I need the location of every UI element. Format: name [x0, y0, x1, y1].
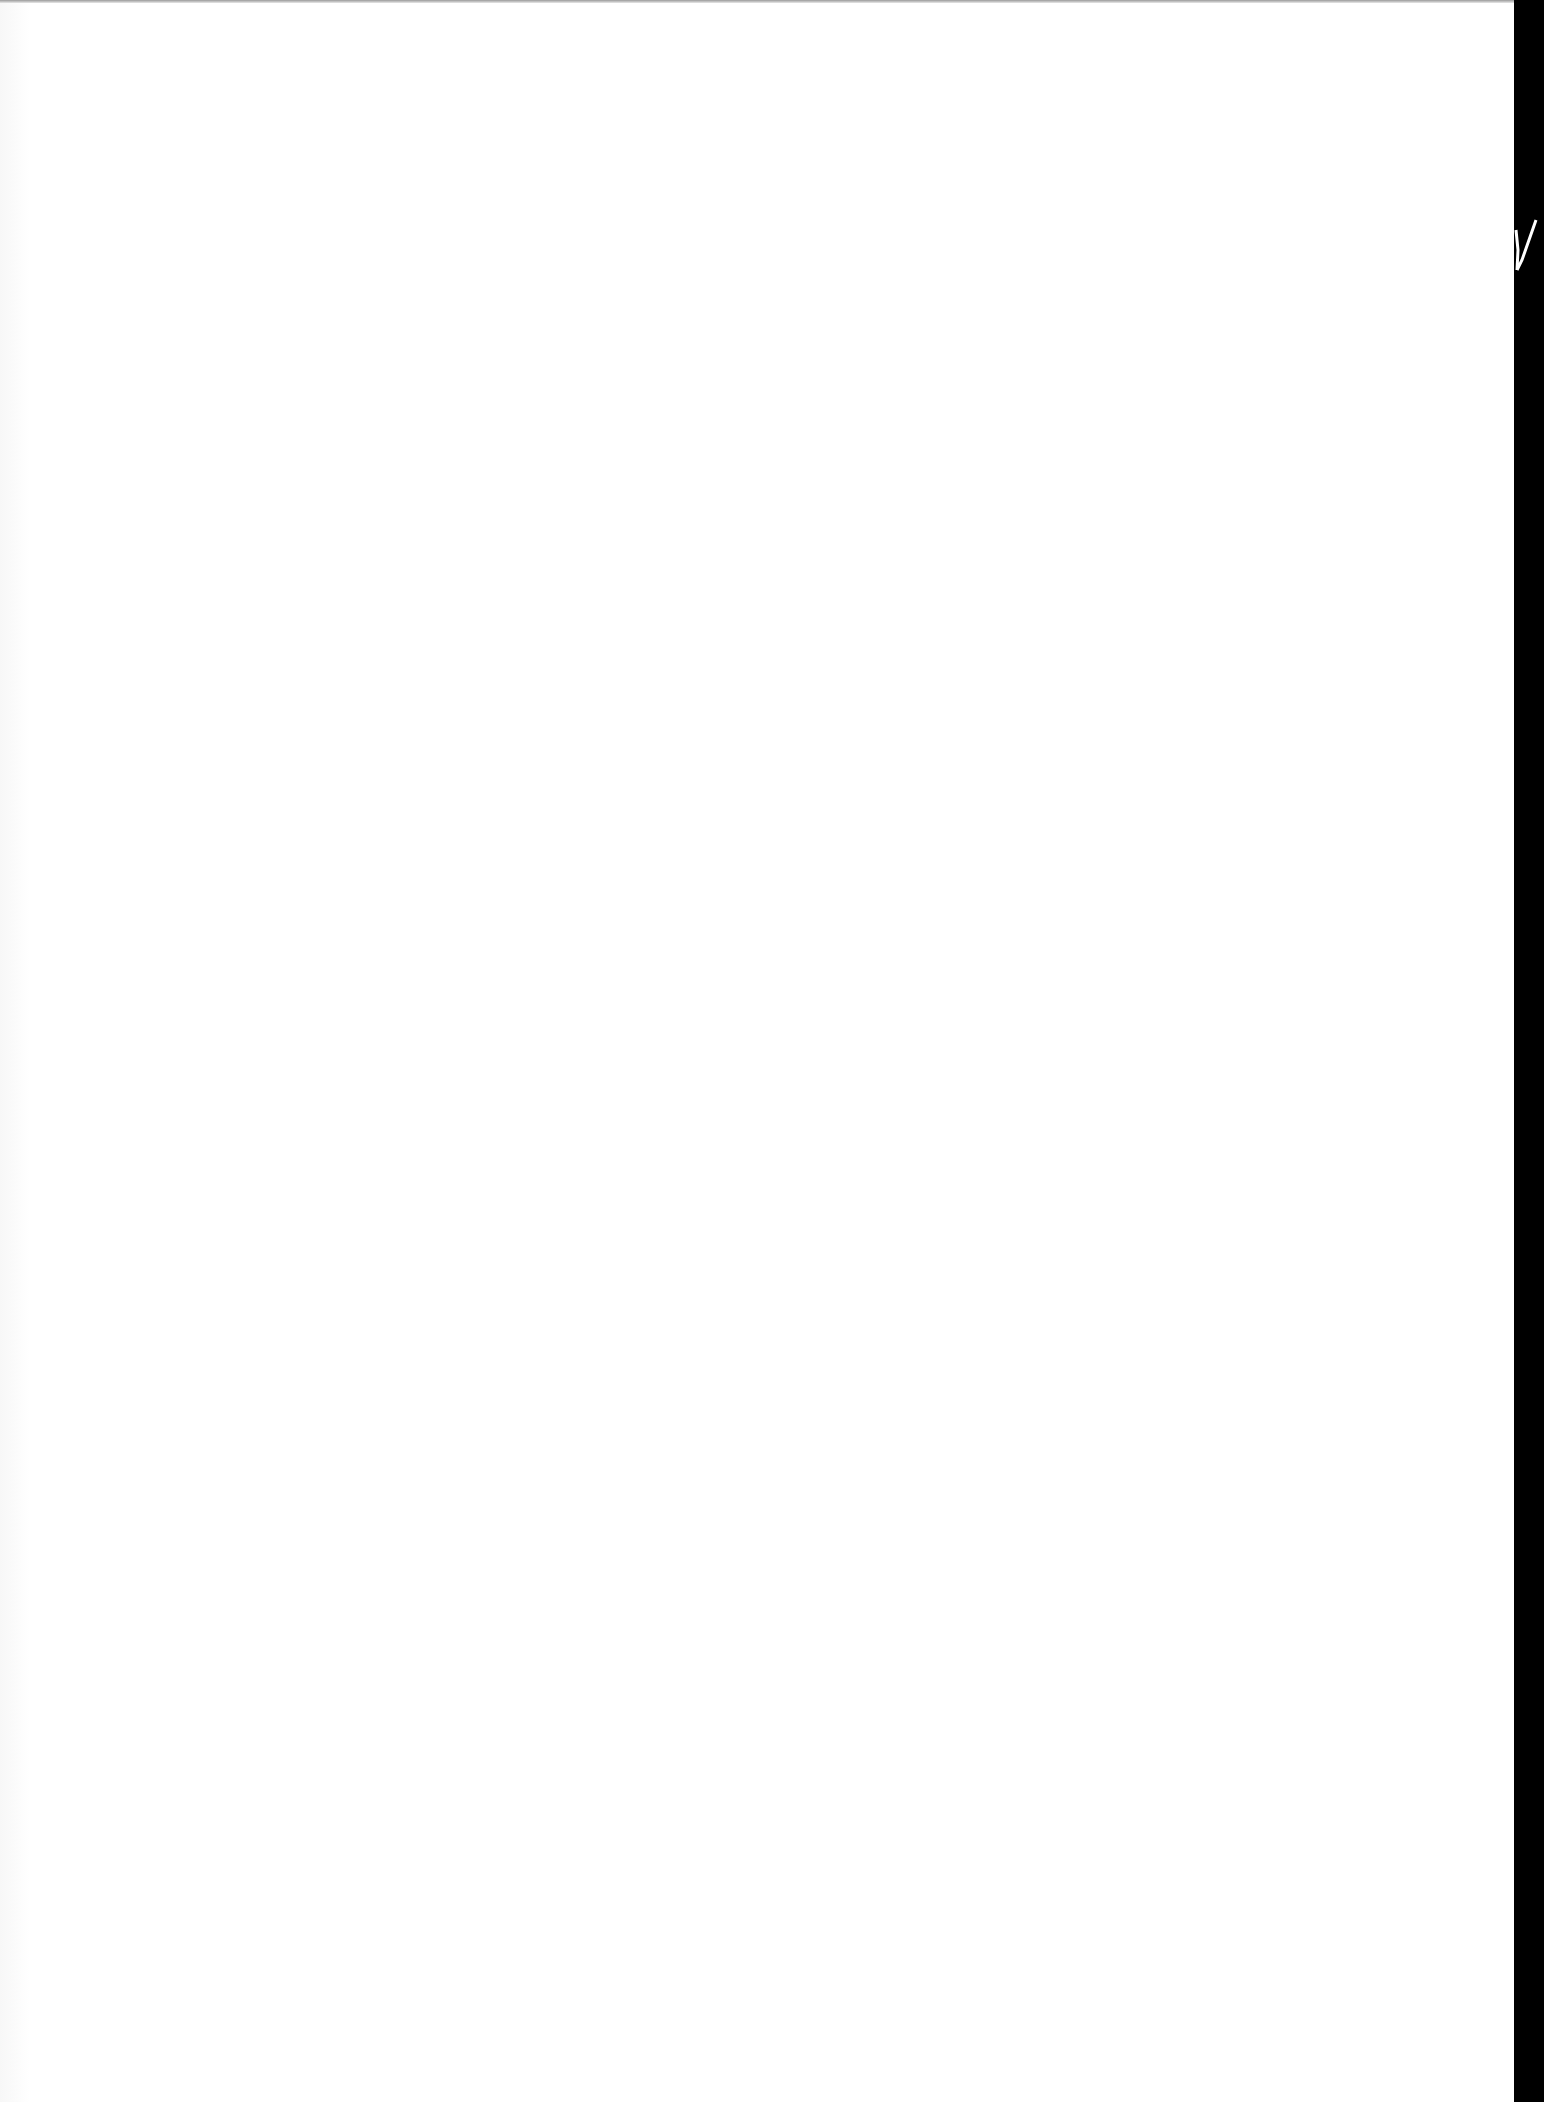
scan-edge-crack-icon [1514, 200, 1544, 320]
blank-page [0, 0, 1514, 2102]
page-top-edge [0, 0, 1514, 3]
